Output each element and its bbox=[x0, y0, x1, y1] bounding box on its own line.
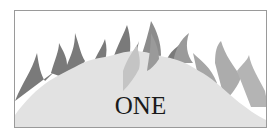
chapter-title: ONE bbox=[15, 93, 266, 118]
flame-illustration-frame: ONE bbox=[14, 10, 267, 128]
